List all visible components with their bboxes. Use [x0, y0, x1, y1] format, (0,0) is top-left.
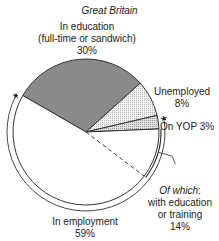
of-which-text: Of which	[159, 185, 198, 196]
label-line: In employment	[40, 216, 130, 228]
label-of-which: Of which: with education or training 14%	[140, 185, 219, 233]
label-value: 30%	[27, 45, 147, 57]
label-line: (full-time or sandwich)	[27, 33, 147, 45]
label-value: 59%	[40, 228, 130, 240]
label-line: In education	[27, 21, 147, 33]
label-line: Unemployed	[150, 86, 214, 98]
label-in-education: In education (full-time or sandwich) 30%	[27, 21, 147, 57]
label-value: 8%	[150, 98, 214, 110]
label-value: 14%	[140, 221, 219, 233]
label-line: or training	[140, 209, 219, 221]
label-line: with education	[140, 197, 219, 209]
label-unemployed: Unemployed 8%	[150, 86, 214, 110]
bracket-cap	[161, 117, 167, 118]
label-in-employment: In employment 59%	[40, 216, 130, 240]
chart-title: Great Britain	[0, 5, 219, 17]
label-on-yop: On YOP 3%	[160, 121, 214, 133]
